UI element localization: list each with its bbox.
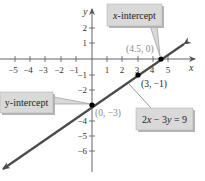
y-axis-label: y — [82, 6, 88, 17]
svg-text:2: 2 — [83, 23, 88, 33]
svg-text:y-intercept: y-intercept — [5, 97, 49, 108]
label-x-intercept-point: (4.5, 0) — [126, 44, 154, 55]
y-intercept-callout: y-intercept — [0, 92, 55, 115]
svg-text:2: 2 — [120, 65, 125, 75]
svg-text:−6: −6 — [77, 146, 87, 156]
svg-text:−2: −2 — [54, 65, 64, 75]
svg-text:−5: −5 — [8, 65, 18, 75]
svg-text:−1: −1 — [77, 70, 87, 80]
label-mid-point: (3, −1) — [141, 79, 167, 90]
svg-text:x-intercept: x-intercept — [112, 10, 156, 21]
svg-text:1: 1 — [83, 38, 88, 48]
y-intercept-connector — [54, 97, 91, 104]
point-y-intercept — [89, 102, 94, 107]
x-intercept-callout: x-intercept — [107, 4, 164, 28]
svg-text:−3: −3 — [38, 65, 48, 75]
svg-text:5: 5 — [166, 65, 171, 75]
equation-callout: 2x − 3y = 9 — [136, 108, 195, 132]
x-axis-label: x — [188, 62, 194, 73]
svg-text:2x − 3y = 9: 2x − 3y = 9 — [142, 114, 187, 125]
svg-text:−4: −4 — [23, 65, 33, 75]
svg-text:−5: −5 — [77, 131, 87, 141]
svg-text:1: 1 — [105, 65, 110, 75]
graph-canvas: x y −5 −4 −3 −2 −1 1 2 3 4 5 2 — [0, 0, 205, 181]
svg-text:−2: −2 — [77, 85, 87, 95]
point-x-intercept — [158, 56, 163, 61]
y-tick-labels: 2 1 −1 −2 −4 −5 −6 — [77, 23, 87, 156]
point-3-neg1 — [135, 72, 140, 77]
label-y-intercept-point: (0, −3) — [95, 108, 121, 119]
